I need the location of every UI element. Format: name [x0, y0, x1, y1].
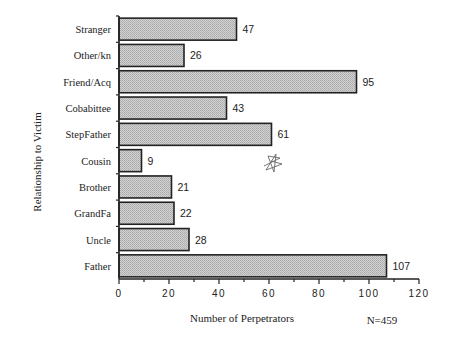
category-label: Cousin — [81, 156, 112, 167]
hand-drawn-star-icon — [264, 154, 282, 172]
category-label: Brother — [79, 182, 112, 193]
bar-value-label: 61 — [278, 128, 290, 140]
bar-other-kn — [119, 44, 184, 66]
category-label: Cobabittee — [66, 103, 112, 114]
bar-grandfa — [119, 202, 174, 224]
category-label: Stranger — [75, 24, 111, 35]
category-label: Friend/Acq — [63, 77, 112, 88]
category-label: StepFather — [66, 129, 112, 140]
bar-stranger — [119, 18, 237, 40]
x-tick-label: 40 — [212, 288, 226, 299]
x-tick-label: 80 — [312, 288, 326, 299]
bar-father — [119, 255, 387, 277]
category-label: Uncle — [86, 235, 111, 246]
bar-value-label: 26 — [190, 49, 202, 61]
category-label: GrandFa — [74, 208, 111, 219]
bar-friend-acq — [119, 71, 357, 93]
category-label: Other/kn — [74, 50, 112, 61]
x-tick-label: 60 — [262, 288, 276, 299]
x-axis-label: Number of Perpetrators — [190, 312, 294, 324]
bar-value-label: 107 — [393, 260, 411, 272]
bar-value-label: 43 — [233, 102, 245, 114]
category-label: Father — [84, 261, 111, 272]
x-tick-label: 120 — [408, 288, 429, 299]
bar-value-label: 22 — [180, 207, 192, 219]
bar-cobabittee — [119, 97, 227, 119]
x-tick-label: 20 — [162, 288, 176, 299]
bar-value-label: 28 — [195, 234, 207, 246]
bar-value-label: 21 — [178, 181, 190, 193]
x-tick-label: 100 — [358, 288, 379, 299]
bar-value-label: 47 — [243, 23, 255, 35]
bar-value-label: 95 — [363, 76, 375, 88]
x-tick-label: 0 — [115, 288, 122, 299]
chart-canvas: 47269543619212228107 StrangerOther/knFri… — [0, 0, 450, 343]
bar-chart: 47269543619212228107 StrangerOther/knFri… — [0, 0, 450, 343]
bar-cousin — [119, 150, 142, 172]
bar-uncle — [119, 229, 189, 251]
bar-stepfather — [119, 123, 272, 145]
bar-brother — [119, 176, 172, 198]
bars-group: 47269543619212228107 — [119, 18, 410, 277]
bar-value-label: 9 — [148, 155, 154, 167]
y-axis-label: Relationship to Victim — [31, 112, 43, 212]
sample-size-note: N=459 — [367, 314, 398, 326]
